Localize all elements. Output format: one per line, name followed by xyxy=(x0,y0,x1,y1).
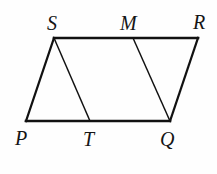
geometry-figure: S M R P T Q xyxy=(0,0,217,174)
vertex-label-r: R xyxy=(193,12,205,32)
segment-MQ xyxy=(133,38,170,121)
vertex-label-t: T xyxy=(83,129,94,149)
vertex-label-s: S xyxy=(47,13,57,33)
segment-ST xyxy=(54,38,90,121)
vertex-label-p: P xyxy=(15,128,27,148)
side-PS xyxy=(26,38,54,121)
vertex-label-q: Q xyxy=(160,129,174,149)
side-QR xyxy=(170,38,198,121)
vertex-label-m: M xyxy=(120,13,137,33)
geometry-canvas xyxy=(0,0,217,174)
